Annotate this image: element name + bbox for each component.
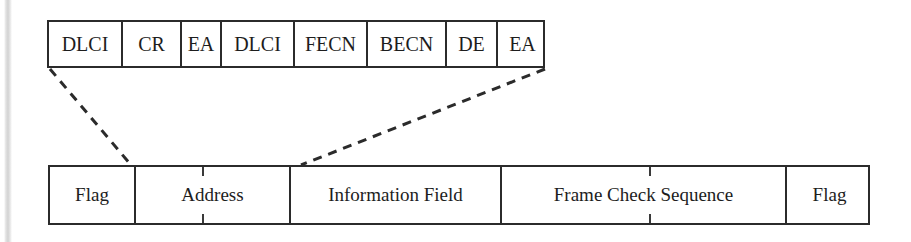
frame-field-cell-label: Flag [75, 184, 109, 206]
address-detail-cell-label: EA [509, 33, 536, 56]
frame-relay-frame-format-diagram: DLCICREADLCIFECNBECNDEEA FlagAddressInfo… [0, 0, 911, 242]
address-detail-cell: EA [180, 22, 220, 66]
address-detail-cell: DE [445, 22, 496, 66]
frame-field-cell: Frame Check Sequence [500, 167, 785, 223]
frame-field-cell: Flag [785, 167, 872, 223]
address-detail-cell-label: FECN [305, 33, 356, 56]
frame-field-cell: Flag [50, 167, 134, 223]
frame-field-subdivision-tick [202, 214, 204, 223]
frame-field-cell: Address [134, 167, 289, 223]
address-detail-cell: CR [121, 22, 180, 66]
address-left-connector [50, 69, 131, 165]
frame-field-subdivision-tick [649, 167, 651, 176]
frame-field-cell-label: Flag [813, 184, 847, 206]
address-detail-cell-label: DE [458, 33, 485, 56]
address-detail-cell: DLCI [49, 22, 121, 66]
frame-field-cell-label: Information Field [328, 184, 463, 206]
address-detail-cell-label: EA [188, 33, 215, 56]
address-detail-cell-label: CR [138, 33, 165, 56]
address-detail-cell: FECN [293, 22, 366, 66]
frame-field-subdivision-tick [649, 214, 651, 223]
address-right-connector [301, 69, 545, 165]
frame-field-cell: Information Field [289, 167, 500, 223]
address-expansion-row: DLCICREADLCIFECNBECNDEEA [47, 20, 545, 68]
address-detail-cell: DLCI [220, 22, 293, 66]
frame-format-row: FlagAddressInformation FieldFrame Check … [48, 165, 870, 225]
frame-field-cell-label: Address [181, 184, 243, 206]
address-detail-cell-label: DLCI [234, 33, 281, 56]
frame-field-subdivision-tick [202, 167, 204, 176]
frame-field-cell-label: Frame Check Sequence [554, 184, 733, 206]
address-detail-cell-label: BECN [380, 33, 433, 56]
scan-edge-artifact [4, 0, 12, 242]
address-detail-cell-label: DLCI [62, 33, 109, 56]
address-detail-cell: EA [496, 22, 547, 66]
address-detail-cell: BECN [366, 22, 445, 66]
